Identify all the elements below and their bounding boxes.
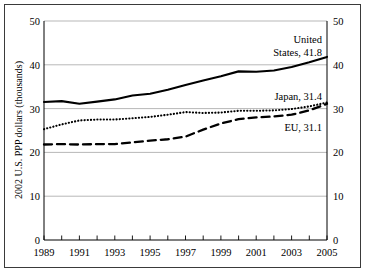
y-axis-title: 2002 U.S. PPP dollars (thousands): [13, 61, 25, 199]
x-label-1999: 1999: [210, 247, 231, 258]
y-left-label-0: 0: [35, 235, 40, 246]
x-axis-ticks: [44, 236, 327, 241]
x-label-1993: 1993: [104, 247, 125, 258]
annotation-united-states-line1: United: [293, 34, 322, 45]
y-left-label-30: 30: [30, 104, 41, 115]
chart-figure: 50 40 30 20 10 0 50 40 30 20 10 0 1989 1…: [0, 0, 365, 272]
x-label-1995: 1995: [140, 247, 161, 258]
y-right-label-0: 0: [333, 235, 338, 246]
y-axis-left-tick-labels: 50 40 30 20 10 0: [30, 16, 41, 246]
x-label-2003: 2003: [281, 247, 302, 258]
annotation-eu: EU, 31.1: [284, 122, 322, 133]
y-left-label-20: 20: [30, 147, 41, 158]
y-right-label-40: 40: [333, 60, 344, 71]
annotation-united-states-line2: States, 41.8: [273, 47, 322, 58]
annotation-japan: Japan, 31.4: [274, 91, 322, 102]
y-right-label-30: 30: [333, 104, 344, 115]
y-left-label-40: 40: [30, 60, 41, 71]
y-left-label-10: 10: [30, 191, 41, 202]
x-label-1997: 1997: [175, 247, 196, 258]
x-label-2005: 2005: [317, 247, 338, 258]
x-label-1991: 1991: [69, 247, 90, 258]
y-left-label-50: 50: [30, 16, 41, 27]
y-right-label-20: 20: [333, 147, 344, 158]
x-label-2001: 2001: [246, 247, 267, 258]
x-label-1989: 1989: [34, 247, 55, 258]
series-annotations: United States, 41.8 Japan, 31.4 EU, 31.1: [273, 34, 322, 133]
x-axis-tick-labels: 1989 1991 1993 1995 1997 1999 2001 2003 …: [34, 247, 338, 258]
line-chart: 50 40 30 20 10 0 50 40 30 20 10 0 1989 1…: [0, 0, 365, 272]
y-right-label-50: 50: [333, 16, 344, 27]
y-axis-right-tick-labels: 50 40 30 20 10 0: [333, 16, 344, 246]
y-right-label-10: 10: [333, 191, 344, 202]
